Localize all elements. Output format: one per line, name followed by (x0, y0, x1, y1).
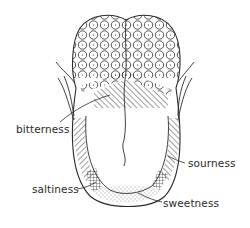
label-bitterness: bitterness (16, 123, 69, 135)
label-saltiness: saltiness (32, 183, 79, 195)
root-papillae (70, 10, 185, 78)
label-sourness: sourness (188, 157, 236, 169)
sweetness-region (92, 186, 160, 203)
tongue-taste-diagram: bitterness sourness saltiness sweetness (0, 0, 250, 228)
label-sweetness: sweetness (163, 197, 219, 209)
